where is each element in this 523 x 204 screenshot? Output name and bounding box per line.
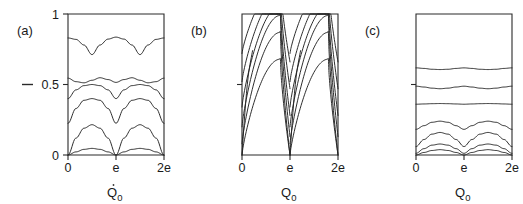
svg-text:0: 0 xyxy=(117,192,122,203)
band-curve xyxy=(242,51,253,155)
svg-text:0: 0 xyxy=(239,161,246,175)
svg-text:0: 0 xyxy=(52,149,59,163)
panel-a: (a) 0e2e00.51Q0 xyxy=(0,0,174,204)
svg-text:0.5: 0.5 xyxy=(42,78,59,92)
band-curve xyxy=(416,121,512,129)
panel-a-plot: 0e2e00.51Q0 xyxy=(0,0,174,204)
svg-text:Q: Q xyxy=(455,185,465,200)
svg-text:2e: 2e xyxy=(331,161,345,175)
svg-text:e: e xyxy=(461,161,468,175)
band-curve xyxy=(68,78,164,83)
panel-c: (c) 0e2eQ0 xyxy=(348,0,522,204)
svg-text:e: e xyxy=(113,161,120,175)
band-curve xyxy=(416,144,512,153)
panel-c-plot: 0e2eQ0 xyxy=(348,0,522,204)
svg-text:Q: Q xyxy=(281,185,291,200)
svg-text:0: 0 xyxy=(291,192,296,203)
band-curve xyxy=(416,150,512,155)
svg-text:0: 0 xyxy=(413,161,420,175)
band-curve xyxy=(416,68,512,70)
svg-text:0: 0 xyxy=(65,161,72,175)
band-curve xyxy=(68,37,164,54)
band-curve xyxy=(416,132,512,146)
svg-text:Q: Q xyxy=(107,185,117,200)
band-curve xyxy=(68,85,164,99)
svg-text:2e: 2e xyxy=(505,161,519,175)
figure-container: (a) 0e2e00.51Q0 (b) 0e2eQ0 (c) 0e2eQ0 xyxy=(0,0,523,204)
svg-text:e: e xyxy=(287,161,294,175)
band-curve xyxy=(68,148,164,155)
svg-text:2e: 2e xyxy=(157,161,171,175)
band-curve xyxy=(290,51,301,155)
svg-text:0: 0 xyxy=(465,192,470,203)
panel-b-plot: 0e2eQ0 xyxy=(174,0,348,204)
band-curve xyxy=(68,125,164,155)
band-curve xyxy=(68,99,164,124)
svg-text:1: 1 xyxy=(52,8,59,22)
band-curve xyxy=(416,104,512,105)
panel-b: (b) 0e2eQ0 xyxy=(174,0,348,204)
band-curve xyxy=(416,86,512,89)
